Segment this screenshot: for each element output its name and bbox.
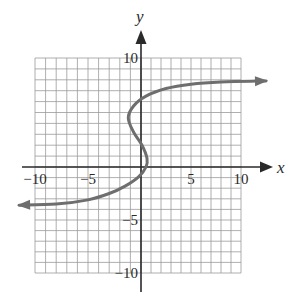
graph-figure: x y −10−551010−5−10 (0, 0, 294, 300)
curve-series (17, 76, 268, 210)
y-tick-label: 10 (123, 50, 138, 66)
y-tick-label: −10 (115, 265, 138, 281)
curve-right-arrow-icon (255, 76, 268, 86)
grid-lines (35, 58, 241, 273)
y-axis-arrow-icon (136, 30, 147, 44)
curve-left-arrow-icon (17, 200, 30, 210)
tick-labels: −10−551010−5−10 (23, 50, 248, 281)
x-axis-arrow-icon (260, 162, 273, 173)
y-axis-label: y (134, 7, 144, 26)
x-axis-label: x (276, 158, 285, 177)
axes: x y (22, 7, 285, 292)
x-tick-label: 5 (187, 171, 195, 187)
x-tick-label: −5 (80, 171, 96, 187)
x-tick-label: 10 (234, 171, 249, 187)
y-tick-label: −5 (122, 212, 138, 228)
x-tick-label: −10 (23, 171, 46, 187)
